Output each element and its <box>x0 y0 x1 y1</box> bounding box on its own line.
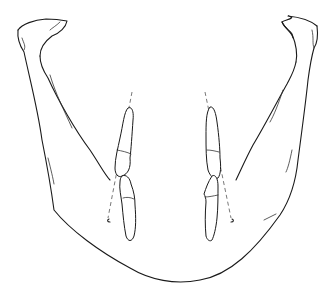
right-lower-tooth <box>204 175 218 240</box>
right-inner-ramus <box>236 62 296 180</box>
mandible-diagram <box>0 0 335 297</box>
left-inner-ramus <box>40 56 110 180</box>
right-axis-end-mark <box>231 219 233 222</box>
mandible-outline <box>18 16 318 282</box>
left-condyle <box>18 19 67 56</box>
left-upper-tooth <box>115 108 133 177</box>
mandible-lower-border <box>18 26 318 282</box>
left-lower-tooth <box>120 175 136 240</box>
right-upper-tooth <box>206 107 221 179</box>
left-axis-end-mark <box>108 219 110 222</box>
